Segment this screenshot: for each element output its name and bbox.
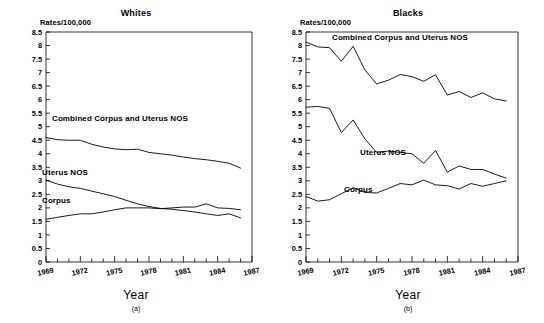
svg-text:1: 1 [38, 231, 42, 240]
svg-text:1978: 1978 [402, 265, 420, 277]
subcaption-blacks: (b) [272, 305, 544, 312]
svg-text:0: 0 [38, 258, 42, 267]
chart-panel-whites: Whites Rates/100,000 00.511.522.533.544.… [0, 0, 272, 323]
svg-text:5: 5 [298, 122, 302, 131]
svg-text:0.5: 0.5 [292, 244, 302, 253]
svg-text:1.5: 1.5 [32, 217, 42, 226]
plot-area-whites: 00.511.522.533.544.555.566.577.588.51969… [0, 0, 272, 290]
svg-text:1975: 1975 [367, 265, 385, 277]
svg-text:0: 0 [298, 258, 302, 267]
svg-text:1987: 1987 [508, 265, 526, 277]
svg-text:2: 2 [298, 203, 302, 212]
svg-text:1969: 1969 [296, 265, 314, 277]
svg-text:5.5: 5.5 [292, 109, 302, 118]
series-label-uterus: Uterus NOS [360, 148, 406, 157]
svg-text:6: 6 [298, 95, 302, 104]
svg-text:7: 7 [38, 68, 42, 77]
svg-text:7: 7 [298, 68, 302, 77]
svg-text:1972: 1972 [71, 265, 89, 277]
series-label-combined: Combined Corpus and Uterus NOS [52, 114, 188, 123]
svg-text:7.5: 7.5 [292, 55, 302, 64]
svg-text:2.5: 2.5 [292, 190, 302, 199]
svg-text:1: 1 [298, 231, 302, 240]
x-axis-title-blacks: Year [272, 288, 544, 302]
svg-text:3: 3 [38, 176, 42, 185]
svg-text:1969: 1969 [36, 265, 54, 277]
svg-text:1981: 1981 [174, 265, 192, 277]
svg-text:5: 5 [38, 122, 42, 131]
svg-text:7.5: 7.5 [32, 55, 42, 64]
svg-text:5.5: 5.5 [32, 109, 42, 118]
svg-text:1984: 1984 [473, 265, 492, 277]
subcaption-whites: (a) [0, 305, 272, 312]
svg-text:3: 3 [298, 176, 302, 185]
svg-text:4.5: 4.5 [292, 136, 302, 145]
svg-text:1987: 1987 [242, 265, 260, 277]
svg-text:1984: 1984 [208, 265, 227, 277]
svg-text:0.5: 0.5 [32, 244, 42, 253]
plot-area-blacks: 00.511.522.533.544.555.566.577.588.51969… [272, 0, 544, 290]
svg-text:1981: 1981 [438, 265, 456, 277]
svg-text:2.5: 2.5 [32, 190, 42, 199]
x-axis-title-whites: Year [0, 288, 272, 302]
svg-text:1975: 1975 [105, 265, 123, 277]
svg-text:6.5: 6.5 [292, 82, 302, 91]
svg-text:6.5: 6.5 [32, 82, 42, 91]
svg-text:4: 4 [298, 149, 303, 158]
svg-text:3.5: 3.5 [292, 163, 302, 172]
svg-text:1.5: 1.5 [292, 217, 302, 226]
figure-root: Whites Rates/100,000 00.511.522.533.544.… [0, 0, 544, 323]
svg-text:3.5: 3.5 [32, 163, 42, 172]
svg-text:1972: 1972 [332, 265, 350, 277]
svg-text:8.5: 8.5 [32, 28, 42, 37]
svg-text:8: 8 [298, 41, 302, 50]
svg-text:6: 6 [38, 95, 42, 104]
series-label-corpus: Corpus [42, 196, 71, 205]
svg-text:4: 4 [38, 149, 43, 158]
svg-text:1978: 1978 [139, 265, 157, 277]
chart-panel-blacks: Blacks Rates/100,000 00.511.522.533.544.… [272, 0, 544, 323]
svg-text:4.5: 4.5 [32, 136, 42, 145]
series-label-corpus: Corpus [344, 185, 373, 194]
series-label-uterus: Uterus NOS [42, 168, 88, 177]
svg-text:8: 8 [38, 41, 42, 50]
svg-text:8.5: 8.5 [292, 28, 302, 37]
series-label-combined: Combined Corpus and Uterus NOS [332, 33, 468, 42]
